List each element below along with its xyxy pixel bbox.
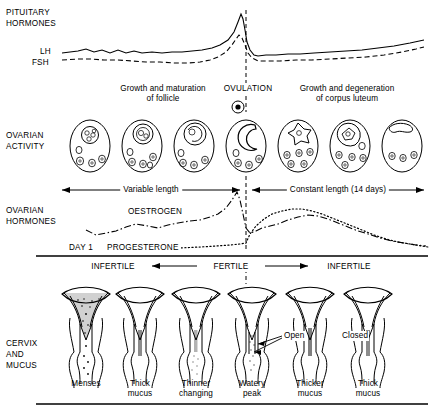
day-1-label: DAY 1 bbox=[69, 243, 93, 253]
oestrogen-curve bbox=[86, 192, 426, 246]
menstrual-cycle-diagram: PITUITARY HORMONES OVARIAN ACTIVITY OVAR… bbox=[0, 0, 431, 410]
phase-left-line2: of follicle bbox=[147, 94, 180, 104]
cervix-caption-4-line1: Watery bbox=[239, 379, 265, 389]
ovary-stage-2 bbox=[122, 120, 162, 172]
lh-label: LH bbox=[40, 47, 51, 57]
cervix-caption-2-line1: Thick bbox=[130, 379, 150, 389]
cervix-caption-6-line1: Thick bbox=[358, 379, 378, 389]
fertility-arrow-right bbox=[265, 263, 308, 269]
ovary-stage-1 bbox=[70, 120, 110, 172]
fertility-label-right: INFERTILE bbox=[327, 262, 371, 272]
cervix-stage-1-menses bbox=[62, 287, 110, 388]
phase-right-line2: of corpus luteum bbox=[316, 94, 378, 104]
progesterone-label: PROGESTERONE bbox=[105, 243, 181, 253]
ovulation-label: OVULATION bbox=[224, 84, 273, 94]
lh-curve bbox=[62, 14, 424, 56]
fsh-label: FSH bbox=[32, 58, 49, 68]
diagram-canvas bbox=[0, 0, 431, 410]
ovary-stage-3 bbox=[174, 120, 214, 172]
cervix-caption-3-line2: changing bbox=[179, 389, 213, 399]
ovary-stage-7 bbox=[382, 120, 422, 172]
cervix-caption-6-line2: mucus bbox=[356, 389, 381, 399]
ovary-stage-6 bbox=[330, 120, 370, 172]
cervix-caption-5-line1: Thicker bbox=[296, 379, 324, 389]
fertility-label-left: INFERTILE bbox=[91, 262, 135, 272]
ovary-stage-5 bbox=[278, 120, 318, 172]
cervix-stage-3-thinner bbox=[172, 287, 220, 388]
mucus-plug-thicker bbox=[308, 328, 312, 356]
cervix-open-label: Open bbox=[283, 331, 305, 341]
cervix-stage-4-watery-peak bbox=[228, 287, 282, 388]
cervix-stage-2-thick-mucus bbox=[116, 287, 164, 388]
cervix-caption-2-line2: mucus bbox=[128, 389, 153, 399]
released-ovum-icon bbox=[232, 101, 244, 113]
cervix-caption-1-line1: Menses bbox=[71, 379, 100, 389]
mucus-plug-thick bbox=[138, 330, 142, 356]
oestrogen-label: OESTROGEN bbox=[126, 207, 184, 217]
phase-left-line1: Growth and maturation bbox=[120, 84, 205, 94]
cervix-caption-5-line2: mucus bbox=[298, 389, 323, 399]
fertility-label-mid: FERTILE bbox=[211, 262, 252, 272]
cervix-closed-label: Closed bbox=[341, 331, 369, 341]
phase-right-line1: Growth and degeneration bbox=[300, 84, 395, 94]
cervix-caption-4-line2: peak bbox=[243, 389, 261, 399]
fertility-arrow-left bbox=[152, 263, 197, 269]
span-label-variable-length: Variable length bbox=[120, 185, 182, 195]
cervix-caption-3-line1: Thinner bbox=[182, 379, 210, 389]
span-label-constant-length: Constant length (14 days) bbox=[287, 185, 389, 195]
